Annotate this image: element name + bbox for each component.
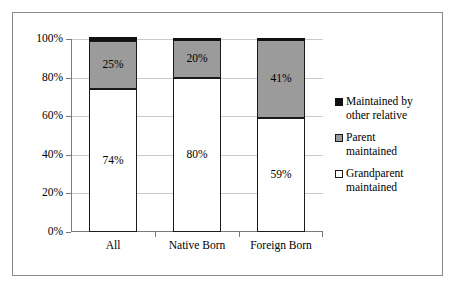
bar-segment-parent[interactable]: 20% bbox=[173, 39, 221, 78]
bar-segment-grandparent[interactable]: 80% bbox=[173, 78, 221, 232]
bar-value-label: 41% bbox=[270, 73, 291, 85]
gray-square-icon bbox=[335, 134, 343, 142]
xtick-1 bbox=[155, 232, 156, 237]
legend-label-line1: Parent bbox=[346, 131, 375, 143]
ytick-label-100: 100% bbox=[36, 33, 63, 45]
bar-segment-other-relative[interactable] bbox=[89, 37, 137, 41]
bar-group-native-born[interactable]: 80% 20% Native Born bbox=[173, 39, 221, 232]
legend-label-line2: maintained bbox=[346, 145, 397, 157]
ytick-label-60: 60% bbox=[42, 110, 63, 122]
legend-label-parent-maintained: Parentmaintained bbox=[346, 131, 397, 158]
ytick-label-20: 20% bbox=[42, 188, 63, 200]
bar-value-label: 20% bbox=[186, 53, 207, 65]
legend-label-grandparent-maintained: Grandparentmaintained bbox=[346, 167, 403, 194]
ytick-0 bbox=[66, 232, 71, 233]
legend-label-line1: Grandparent bbox=[346, 167, 403, 179]
legend-label-line2: other relative bbox=[346, 109, 407, 121]
bar-segment-parent[interactable]: 25% bbox=[89, 41, 137, 89]
legend-item-grandparent-maintained[interactable]: Grandparentmaintained bbox=[335, 167, 443, 194]
plot-area: 100% 80% 60% 40% 20% 0% 74% 25% bbox=[71, 39, 323, 232]
figure-frame: 100% 80% 60% 40% 20% 0% 74% 25% bbox=[12, 12, 443, 276]
x-category-label-foreign-born: Foreign Born bbox=[250, 240, 312, 252]
black-square-icon bbox=[335, 98, 343, 106]
bar-segment-grandparent[interactable]: 74% bbox=[89, 89, 137, 232]
ytick-label-80: 80% bbox=[42, 72, 63, 84]
xtick-3 bbox=[322, 232, 323, 237]
ytick-label-0: 0% bbox=[48, 226, 63, 238]
y-axis-line bbox=[71, 39, 72, 232]
bar-segment-other-relative[interactable] bbox=[257, 38, 305, 41]
x-category-label-native-born: Native Born bbox=[169, 240, 226, 252]
x-category-label-all: All bbox=[106, 240, 121, 252]
ytick-label-40: 40% bbox=[42, 149, 63, 161]
bar-value-label: 25% bbox=[102, 59, 123, 71]
bar-group-all[interactable]: 74% 25% All bbox=[89, 39, 137, 232]
chart-legend: Maintained byother relative Parentmainta… bbox=[335, 95, 443, 203]
legend-item-other-relative[interactable]: Maintained byother relative bbox=[335, 95, 443, 122]
bar-value-label: 80% bbox=[186, 149, 207, 161]
legend-item-parent-maintained[interactable]: Parentmaintained bbox=[335, 131, 443, 158]
white-square-icon bbox=[335, 170, 343, 178]
bar-segment-parent[interactable]: 41% bbox=[257, 39, 305, 118]
xtick-2 bbox=[239, 232, 240, 237]
legend-label-line2: maintained bbox=[346, 181, 397, 193]
bar-value-label: 74% bbox=[102, 155, 123, 167]
legend-label-other-relative: Maintained byother relative bbox=[346, 95, 413, 122]
bar-segment-other-relative[interactable] bbox=[173, 38, 221, 41]
bar-segment-grandparent[interactable]: 59% bbox=[257, 118, 305, 232]
chart-root: 100% 80% 60% 40% 20% 0% 74% 25% bbox=[0, 0, 455, 290]
bar-group-foreign-born[interactable]: 59% 41% Foreign Born bbox=[257, 39, 305, 232]
bar-value-label: 59% bbox=[270, 169, 291, 181]
legend-label-line1: Maintained by bbox=[346, 95, 413, 107]
